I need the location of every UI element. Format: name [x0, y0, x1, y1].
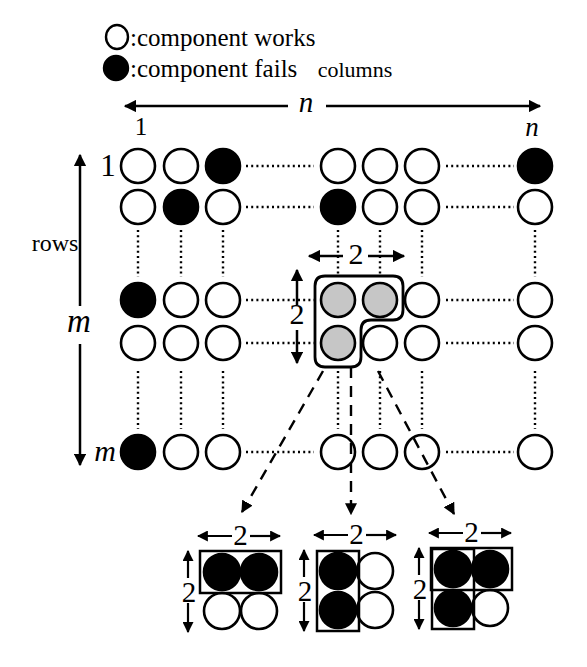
n-arrow-label: n — [299, 86, 314, 118]
mini-height-label: 2 — [298, 575, 313, 607]
component-r1-c1-works — [121, 149, 155, 183]
component-r2-c6-works — [405, 190, 439, 224]
mini1-component-works — [204, 593, 240, 629]
component-r4-c4-selected — [321, 326, 355, 360]
columns-axis-label: columns — [318, 57, 393, 82]
component-r4-c3-works — [206, 326, 240, 360]
mini1-component-fails — [204, 554, 240, 590]
component-r3-c5-selected — [363, 283, 397, 317]
legend-works-icon — [106, 25, 128, 49]
mini3-component-works — [472, 590, 508, 626]
failure-pattern-l-shape: 22 — [413, 516, 512, 629]
component-r5-c5-works — [363, 435, 397, 469]
mini1-component-fails — [241, 554, 277, 590]
pattern-pointer-left — [242, 371, 323, 512]
component-r1-c2-works — [164, 149, 198, 183]
component-r3-c1-fails — [121, 283, 155, 317]
component-r2-c4-fails — [321, 190, 355, 224]
component-r3-c7-works — [518, 283, 552, 317]
mini3-component-fails — [435, 551, 471, 587]
component-r2-c1-works — [121, 190, 155, 224]
rows-axis-label: rows — [32, 230, 79, 256]
window-width-label: 2 — [349, 237, 364, 270]
last-column-label: n — [525, 112, 539, 142]
mini-width-label: 2 — [233, 519, 248, 551]
mini3-component-fails — [435, 590, 471, 626]
legend-fails-icon — [104, 56, 128, 80]
component-r3-c4-selected — [321, 283, 355, 317]
component-grid — [121, 149, 552, 469]
mini-width-label: 2 — [464, 516, 479, 548]
component-r5-c1-fails — [121, 435, 155, 469]
mini2-component-fails — [320, 553, 356, 589]
mini-width-label: 2 — [349, 518, 364, 550]
component-r1-c6-works — [405, 149, 439, 183]
last-row-label: m — [94, 434, 116, 467]
mini2-component-works — [357, 553, 393, 589]
component-r3-c6-works — [405, 283, 439, 317]
component-r3-c2-works — [164, 283, 198, 317]
component-r5-c2-works — [164, 435, 198, 469]
component-r3-c3-works — [206, 283, 240, 317]
failure-pattern-horizontal-pair: 22 — [182, 519, 281, 632]
first-column-label: 1 — [135, 113, 148, 140]
mini3-component-fails — [472, 551, 508, 587]
legend-fails-label: :component fails — [130, 55, 297, 82]
mini2-component-works — [357, 592, 393, 628]
component-r2-c7-works — [518, 190, 552, 224]
figure-2d-consecutive-system: :component works :component fails column… — [0, 0, 587, 667]
legend-works-label: :component works — [130, 24, 315, 51]
component-r1-c3-fails — [206, 149, 240, 183]
component-r2-c5-works — [363, 190, 397, 224]
component-r4-c7-works — [518, 326, 552, 360]
component-r5-c7-works — [518, 435, 552, 469]
window-height-label: 2 — [290, 297, 305, 330]
mini-height-label: 2 — [182, 576, 197, 608]
component-r5-c6-works — [405, 435, 439, 469]
mini-height-label: 2 — [413, 573, 428, 605]
diagram-svg: :component works :component fails column… — [0, 0, 587, 667]
component-r4-c6-works — [405, 326, 439, 360]
failure-pattern-vertical-pair: 22 — [298, 518, 396, 631]
mini1-component-works — [241, 593, 277, 629]
component-r2-c3-works — [206, 190, 240, 224]
component-r1-c4-works — [321, 149, 355, 183]
component-r5-c3-works — [206, 435, 240, 469]
component-r1-c7-fails — [518, 149, 552, 183]
component-r4-c2-works — [164, 326, 198, 360]
mini2-component-fails — [320, 592, 356, 628]
component-r2-c2-fails — [164, 190, 198, 224]
component-r1-c5-works — [363, 149, 397, 183]
first-row-label: 1 — [100, 148, 116, 183]
component-r4-c1-works — [121, 326, 155, 360]
row-count-label: m — [67, 303, 91, 339]
component-r4-c5-works — [363, 326, 397, 360]
